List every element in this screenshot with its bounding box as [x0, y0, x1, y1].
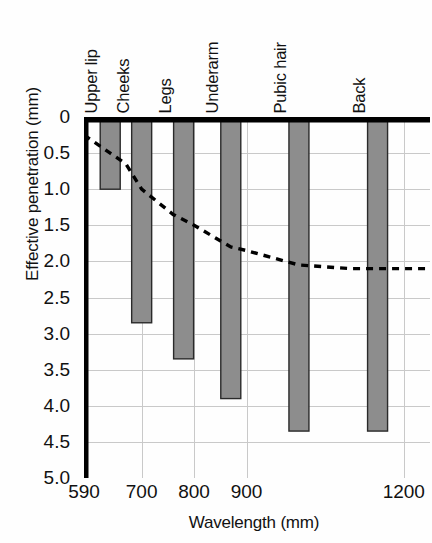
x-axis-tick-labels: 5907008009001200 [0, 0, 432, 543]
x-tick-label: 900 [231, 482, 263, 501]
penetration-depth-chart: Effective penetration (mm) 00.51.01.52.0… [0, 0, 432, 543]
x-tick-label: 590 [68, 482, 100, 501]
x-tick-label: 1200 [383, 482, 425, 501]
x-tick-label: 700 [126, 482, 158, 501]
x-tick-label: 800 [178, 482, 210, 501]
x-axis-title: Wavelength (mm) [78, 513, 430, 533]
